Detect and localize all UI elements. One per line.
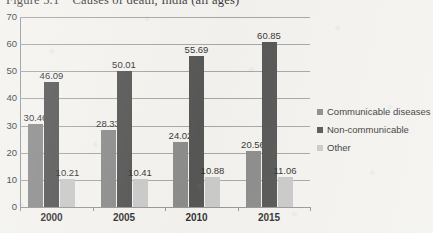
- x-axis-tick-labels: 2000200520102015: [20, 213, 310, 229]
- x-axis-tick-label: 2000: [40, 213, 62, 223]
- bar[interactable]: [173, 142, 188, 207]
- x-axis-tick: [165, 207, 166, 211]
- legend-label: Other: [327, 143, 351, 153]
- bar[interactable]: [117, 71, 132, 207]
- x-axis-tick-label: 2010: [185, 213, 207, 223]
- bar[interactable]: [44, 82, 59, 207]
- legend-swatch-icon: [317, 109, 323, 115]
- legend-label: Communicable diseases: [327, 107, 431, 117]
- legend-label: Non-communicable: [327, 125, 409, 135]
- y-axis-tick-label: 70: [0, 12, 17, 22]
- legend-swatch-icon: [317, 127, 323, 133]
- legend-swatch-icon: [317, 145, 323, 151]
- y-axis-tick-label: 60: [0, 39, 17, 49]
- x-axis-tick: [93, 207, 94, 211]
- x-axis-tick-label: 2005: [113, 213, 135, 223]
- bar[interactable]: [262, 42, 277, 207]
- bar[interactable]: [246, 151, 261, 207]
- bar-value-label: 10.21: [54, 168, 82, 178]
- y-axis-tick-label: 30: [0, 121, 17, 131]
- figure-caption: Figure 5.1Causes of death, India (all ag…: [6, 0, 239, 8]
- legend-item[interactable]: Communicable diseases: [317, 103, 433, 121]
- y-axis-tick-label: 20: [0, 148, 17, 158]
- x-axis-tick: [238, 207, 239, 211]
- y-axis-tick-label: 40: [0, 94, 17, 104]
- bar-value-label: 11.06: [271, 166, 299, 176]
- bar[interactable]: [205, 177, 220, 207]
- figure-caption-text: Causes of death, India (all ages): [72, 0, 239, 7]
- y-axis-tick-label: 0: [0, 202, 17, 212]
- gridline: [20, 17, 310, 18]
- x-axis-tick: [20, 207, 21, 211]
- bar-value-label: 10.41: [126, 168, 154, 178]
- y-axis-tick-label: 10: [0, 175, 17, 185]
- bar-value-label: 55.69: [183, 45, 211, 55]
- bar[interactable]: [60, 179, 75, 207]
- bar-value-label: 60.85: [255, 31, 283, 41]
- bar-value-label: 10.88: [199, 166, 227, 176]
- x-axis-ticks: [20, 207, 310, 211]
- bar[interactable]: [101, 130, 116, 207]
- bar-value-label: 46.09: [38, 71, 66, 81]
- bar-chart: 010203040506070 30.4646.0910.2128.3350.0…: [0, 0, 433, 233]
- legend-item[interactable]: Other: [317, 139, 433, 157]
- legend-item[interactable]: Non-communicable: [317, 121, 433, 139]
- chart-legend: Communicable diseasesNon-communicableOth…: [317, 103, 433, 157]
- x-axis-tick-label: 2015: [258, 213, 280, 223]
- figure-caption-number: Figure 5.1: [6, 0, 59, 7]
- y-axis-tick-labels: 010203040506070: [0, 17, 17, 207]
- bar-value-label: 50.01: [110, 60, 138, 70]
- bar[interactable]: [133, 179, 148, 207]
- plot-area: 30.4646.0910.2128.3350.0110.4124.0255.69…: [20, 17, 310, 207]
- bar[interactable]: [189, 56, 204, 207]
- bar[interactable]: [278, 177, 293, 207]
- bar[interactable]: [28, 124, 43, 207]
- x-axis-tick: [310, 207, 311, 211]
- y-axis-tick-label: 50: [0, 67, 17, 77]
